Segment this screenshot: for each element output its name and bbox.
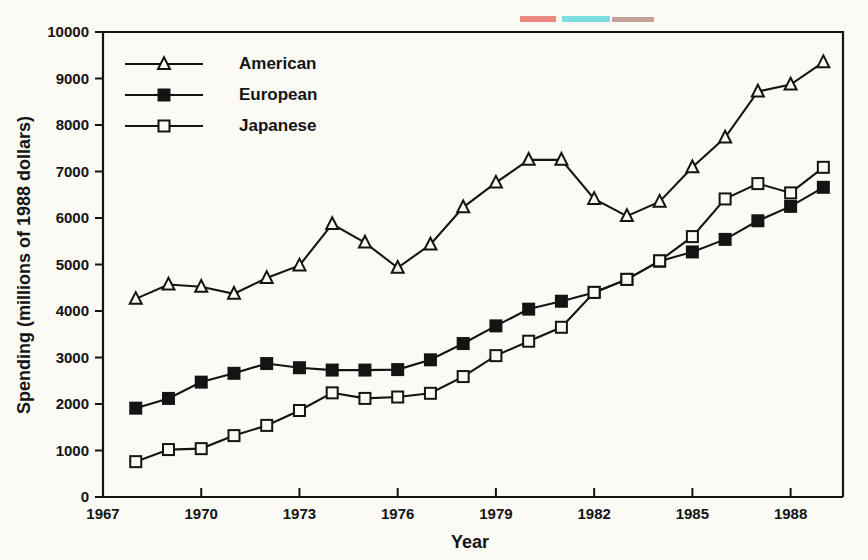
chart-legend: AmericanEuropeanJapanese: [125, 54, 317, 135]
marker-filled-square: [159, 90, 170, 101]
marker-filled-square: [818, 182, 829, 193]
y-axis: 0100020003000400050006000700080009000100…: [47, 23, 103, 505]
marker-filled-square: [523, 304, 534, 315]
marker-open-square: [687, 231, 698, 242]
marker-open-square: [359, 393, 370, 404]
marker-filled-square: [327, 365, 338, 376]
marker-open-square: [327, 387, 338, 398]
marker-open-square: [621, 274, 632, 285]
marker-open-square: [752, 178, 763, 189]
marker-filled-square: [458, 338, 469, 349]
legend-item-japanese: Japanese: [125, 116, 317, 135]
x-tick-label: 1967: [86, 505, 119, 522]
marker-open-triangle: [785, 78, 797, 90]
marker-filled-square: [261, 358, 272, 369]
marker-open-triangle: [490, 176, 502, 188]
marker-open-square: [589, 287, 600, 298]
plot-frame: [103, 32, 843, 497]
y-tick-label: 8000: [56, 116, 89, 133]
marker-filled-square: [392, 364, 403, 375]
marker-filled-square: [556, 296, 567, 307]
marker-open-triangle: [162, 278, 174, 290]
marker-open-square: [490, 350, 501, 361]
marker-open-square: [228, 430, 239, 441]
marker-open-square: [720, 193, 731, 204]
y-tick-label: 6000: [56, 209, 89, 226]
series-american: [130, 55, 830, 303]
marker-open-square: [294, 405, 305, 416]
x-tick-label: 1970: [185, 505, 218, 522]
x-axis-title: Year: [451, 532, 489, 552]
series-japanese: [130, 162, 829, 467]
y-tick-label: 0: [81, 488, 89, 505]
chart-container: 0100020003000400050006000700080009000100…: [0, 0, 868, 560]
marker-filled-square: [490, 320, 501, 331]
marker-open-square: [818, 162, 829, 173]
x-tick-label: 1979: [479, 505, 512, 522]
marker-filled-square: [752, 215, 763, 226]
legend-item-american: American: [125, 54, 316, 73]
y-tick-label: 1000: [56, 442, 89, 459]
marker-filled-square: [163, 393, 174, 404]
x-tick-label: 1988: [774, 505, 807, 522]
marker-open-square: [654, 255, 665, 266]
marker-filled-square: [720, 234, 731, 245]
marker-filled-square: [294, 362, 305, 373]
marker-open-triangle: [457, 200, 469, 212]
marker-open-square: [523, 336, 534, 347]
marker-filled-square: [359, 365, 370, 376]
marker-filled-square: [196, 377, 207, 388]
marker-open-square: [458, 371, 469, 382]
marker-open-square: [556, 322, 567, 333]
marker-open-triangle: [817, 55, 829, 67]
scan-artifact-group: [520, 16, 654, 22]
marker-filled-square: [130, 403, 141, 414]
y-tick-label: 3000: [56, 349, 89, 366]
y-axis-title: Spending (millions of 1988 dollars): [14, 116, 34, 414]
marker-open-square: [196, 443, 207, 454]
data-series-group: [130, 55, 830, 467]
x-tick-label: 1982: [577, 505, 610, 522]
marker-open-square: [392, 392, 403, 403]
y-tick-label: 4000: [56, 302, 89, 319]
y-tick-label: 2000: [56, 395, 89, 412]
marker-filled-square: [228, 368, 239, 379]
legend-item-label: European: [239, 85, 317, 104]
marker-open-square: [130, 456, 141, 467]
marker-open-square: [785, 187, 796, 198]
line-chart: 0100020003000400050006000700080009000100…: [0, 0, 868, 560]
marker-open-square: [159, 121, 170, 132]
marker-filled-square: [785, 201, 796, 212]
marker-filled-square: [425, 354, 436, 365]
marker-open-triangle: [359, 236, 371, 248]
legend-item-european: European: [125, 85, 317, 104]
marker-open-triangle: [392, 261, 404, 273]
legend-item-label: American: [239, 54, 316, 73]
y-tick-label: 5000: [56, 256, 89, 273]
marker-open-square: [261, 420, 272, 431]
y-tick-label: 7000: [56, 163, 89, 180]
marker-filled-square: [687, 246, 698, 257]
marker-open-square: [425, 388, 436, 399]
x-tick-label: 1973: [283, 505, 316, 522]
x-tick-label: 1985: [676, 505, 709, 522]
series-polyline: [136, 167, 824, 461]
marker-open-square: [163, 444, 174, 455]
y-tick-label: 10000: [47, 23, 89, 40]
marker-open-triangle: [326, 217, 338, 229]
y-tick-label: 9000: [56, 70, 89, 87]
x-tick-label: 1976: [381, 505, 414, 522]
legend-item-label: Japanese: [239, 116, 317, 135]
x-axis: 19671970197319761979198219851988: [86, 488, 807, 522]
